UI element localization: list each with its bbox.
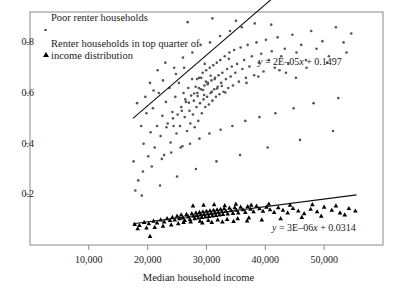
chart-legend: Poor renter households Renter households… bbox=[40, 12, 220, 64]
x-tick-label: 10,000 bbox=[61, 254, 117, 265]
x-tick-label: 40,000 bbox=[237, 254, 293, 265]
x-tick-label: 30,000 bbox=[179, 254, 235, 265]
x-axis-ticks bbox=[89, 245, 324, 250]
legend-label-top-quarter: Renter households in top quarter of inco… bbox=[51, 38, 220, 61]
x-tick-label: 50,000 bbox=[296, 254, 352, 265]
legend-dot-icon bbox=[40, 12, 51, 35]
trendline-equation-lower: y = 3E–06x + 0.0314 bbox=[272, 222, 356, 233]
legend-item-poor-renter: Poor renter households bbox=[40, 12, 220, 35]
trendline-equation-upper: y = 2E–05x + 0.1497 bbox=[258, 56, 342, 67]
y-tick-label: 0.8 bbox=[0, 36, 34, 47]
legend-label-poor-renter: Poor renter households bbox=[51, 12, 148, 24]
y-tick-label: 0.4 bbox=[0, 138, 34, 149]
y-tick-label: 0.6 bbox=[0, 87, 34, 98]
legend-item-top-quarter: Renter households in top quarter of inco… bbox=[40, 38, 220, 61]
x-tick-label: 20,000 bbox=[120, 254, 176, 265]
scatter-chart-figure: 0.20.40.60.8 10,00020,00030,00040,00050,… bbox=[0, 0, 397, 292]
legend-triangle-icon bbox=[40, 38, 51, 61]
y-axis-ticks bbox=[25, 42, 30, 194]
trendline-1 bbox=[133, 195, 357, 224]
y-tick-label: 0.2 bbox=[0, 188, 34, 199]
x-axis-title: Median household income bbox=[0, 272, 397, 283]
